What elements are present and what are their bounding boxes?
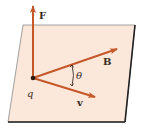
field-label: B bbox=[103, 56, 111, 67]
force-label: F bbox=[39, 10, 46, 21]
velocity-label: v bbox=[76, 97, 84, 108]
charge-label: q bbox=[27, 88, 33, 99]
plane bbox=[8, 25, 135, 122]
plane-surface bbox=[8, 25, 135, 122]
angle-label: θ bbox=[76, 70, 82, 81]
charge-dot bbox=[31, 76, 36, 81]
force-on-charge-diagram: F B v q θ bbox=[0, 0, 141, 131]
